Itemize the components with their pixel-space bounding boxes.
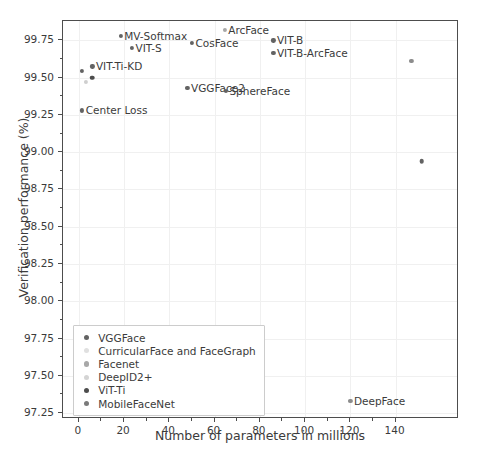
legend-item[interactable]: MobileFaceNet bbox=[80, 397, 256, 410]
x-tick-minor bbox=[191, 418, 192, 421]
data-point-label: VIT-B-ArcFace bbox=[277, 47, 348, 59]
y-tick-minor bbox=[60, 282, 63, 283]
y-tick-minor bbox=[60, 319, 63, 320]
data-point-label: ArcFace bbox=[228, 24, 269, 36]
y-axis-label: Verification performance (%) bbox=[16, 9, 31, 407]
legend-item[interactable]: CurricularFace and FaceGraph bbox=[80, 344, 256, 357]
gridline-vertical bbox=[396, 21, 397, 417]
legend-item[interactable]: Facenet bbox=[80, 357, 256, 370]
legend-marker-icon bbox=[84, 361, 89, 366]
data-point[interactable] bbox=[90, 75, 95, 80]
gridline-horizontal bbox=[63, 189, 457, 190]
y-tick-minor bbox=[60, 95, 63, 96]
x-tick bbox=[259, 418, 260, 422]
y-tick-minor bbox=[60, 170, 63, 171]
y-tick-minor bbox=[60, 207, 63, 208]
scatter-chart-figure: Center LossVIT-Ti-KDMV-SoftmaxVIT-SVGGFa… bbox=[0, 0, 480, 465]
data-point[interactable] bbox=[409, 58, 413, 62]
legend-marker-icon bbox=[84, 335, 89, 340]
y-tick bbox=[58, 77, 62, 78]
gridline-horizontal bbox=[63, 227, 457, 228]
legend-label: MobileFaceNet bbox=[98, 398, 175, 410]
data-point[interactable] bbox=[271, 51, 275, 55]
legend-label: DeepID2+ bbox=[98, 371, 152, 383]
y-tick-minor bbox=[60, 356, 63, 357]
y-tick bbox=[58, 151, 62, 152]
data-point-label: VIT-B bbox=[277, 34, 303, 46]
gridline-horizontal bbox=[63, 152, 457, 153]
gridline-horizontal bbox=[63, 78, 457, 79]
y-tick bbox=[58, 300, 62, 301]
legend-label: VGGFace bbox=[98, 332, 145, 344]
x-tick-minor bbox=[372, 418, 373, 421]
data-point-label: CosFace bbox=[195, 37, 238, 49]
x-tick bbox=[349, 418, 350, 422]
y-tick bbox=[58, 226, 62, 227]
data-point[interactable] bbox=[190, 41, 194, 45]
gridline-horizontal bbox=[63, 301, 457, 302]
y-tick-minor bbox=[60, 244, 63, 245]
data-point[interactable] bbox=[90, 64, 94, 68]
x-tick bbox=[123, 418, 124, 422]
data-point[interactable] bbox=[119, 34, 123, 38]
legend-label: ViT-Ti bbox=[98, 384, 125, 396]
y-tick bbox=[58, 412, 62, 413]
x-tick bbox=[304, 418, 305, 422]
gridline-horizontal bbox=[63, 264, 457, 265]
x-tick-minor bbox=[146, 418, 147, 421]
x-tick bbox=[168, 418, 169, 422]
gridline-vertical bbox=[305, 21, 306, 417]
y-tick bbox=[58, 375, 62, 376]
data-point-label: VIT-S bbox=[136, 42, 162, 54]
x-tick-minor bbox=[100, 418, 101, 421]
y-tick bbox=[58, 114, 62, 115]
data-point[interactable] bbox=[271, 38, 275, 42]
data-point[interactable] bbox=[80, 108, 84, 112]
data-point[interactable] bbox=[419, 159, 424, 164]
y-tick-minor bbox=[60, 393, 63, 394]
y-tick bbox=[58, 338, 62, 339]
y-tick-label: 97.25 bbox=[24, 406, 54, 418]
legend-marker-icon bbox=[84, 348, 89, 353]
x-tick bbox=[78, 418, 79, 422]
data-point[interactable] bbox=[80, 69, 84, 73]
legend-item[interactable]: VGGFace bbox=[80, 331, 256, 344]
y-tick-minor bbox=[60, 58, 63, 59]
data-point[interactable] bbox=[130, 46, 134, 50]
legend-item[interactable]: DeepID2+ bbox=[80, 371, 256, 384]
gridline-vertical bbox=[350, 21, 351, 417]
x-axis-label: Number of parameters in millions bbox=[62, 428, 458, 443]
data-point[interactable] bbox=[185, 86, 189, 90]
y-tick-minor bbox=[60, 133, 63, 134]
data-point[interactable] bbox=[84, 80, 88, 84]
legend-marker-icon bbox=[84, 401, 89, 406]
y-tick bbox=[58, 39, 62, 40]
data-point-label: SphereFace bbox=[229, 85, 290, 97]
data-point-label: Center Loss bbox=[86, 104, 148, 116]
data-point-label: MV-Softmax bbox=[124, 30, 187, 42]
data-point[interactable] bbox=[223, 28, 227, 32]
x-tick bbox=[395, 418, 396, 422]
x-tick-minor bbox=[236, 418, 237, 421]
data-point-label: DeepFace bbox=[354, 395, 405, 407]
y-tick bbox=[58, 263, 62, 264]
plot-area: Center LossVIT-Ti-KDMV-SoftmaxVIT-SVGGFa… bbox=[62, 20, 458, 418]
x-tick bbox=[214, 418, 215, 422]
gridline-horizontal bbox=[63, 40, 457, 41]
x-tick-minor bbox=[327, 418, 328, 421]
legend-item[interactable]: ViT-Ti bbox=[80, 384, 256, 397]
x-tick-minor bbox=[281, 418, 282, 421]
legend-marker-icon bbox=[84, 388, 89, 393]
legend-marker-icon bbox=[84, 375, 89, 380]
legend-label: Facenet bbox=[98, 358, 139, 370]
data-point-label: VIT-Ti-KD bbox=[96, 60, 142, 72]
legend-label: CurricularFace and FaceGraph bbox=[98, 345, 256, 357]
data-point[interactable] bbox=[348, 399, 352, 403]
y-tick bbox=[58, 188, 62, 189]
chart-legend: VGGFaceCurricularFace and FaceGraphFacen… bbox=[73, 325, 265, 416]
